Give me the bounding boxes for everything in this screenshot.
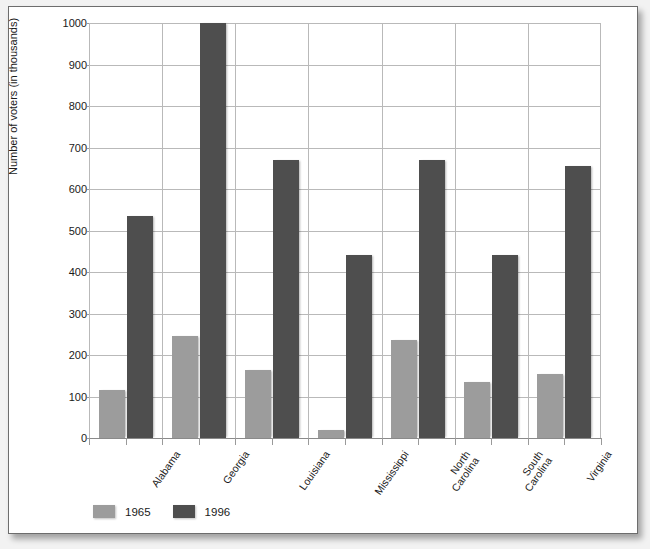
gridline-horizontal [89,397,601,398]
y-tick-label: 300 [13,308,87,320]
y-tick-label: 700 [13,142,87,154]
bar [172,336,198,438]
x-tick-label: SouthCarolina [514,449,554,494]
bar [200,23,226,438]
bar-chart: Number of voters (in thousands) 01002003… [9,7,639,535]
gridline-horizontal [89,65,601,66]
gridline-vertical [382,23,383,438]
legend-swatch [173,505,195,518]
x-tick-mark-edge [162,438,163,445]
legend-label: 1965 [125,506,151,518]
x-tick-label: Alabama [149,449,182,489]
chart-legend: 19651996 [93,505,230,518]
gridline-horizontal [89,272,601,273]
x-tick-label: Mississippi [373,449,411,497]
x-tick-mark [126,438,127,445]
x-tick-label: Louisiana [297,449,332,492]
x-tick-mark-edge [601,438,602,445]
bar [127,216,153,438]
gridline-vertical [528,23,529,438]
gridline-horizontal [89,355,601,356]
bar [537,374,563,438]
x-tick-mark-edge [455,438,456,445]
y-tick-label: 400 [13,266,87,278]
scanned-page: Number of voters (in thousands) 01002003… [0,0,650,549]
gridline-horizontal [89,106,601,107]
bar [565,166,591,438]
x-tick-mark [564,438,565,445]
y-tick-label: 600 [13,183,87,195]
x-tick-label: Georgia [221,449,251,486]
gridline-vertical [600,23,601,438]
plot-area [89,23,601,438]
y-tick-label: 100 [13,391,87,403]
y-tick-label: 900 [13,59,87,71]
gridline-horizontal [89,314,601,315]
gridline-vertical [455,23,456,438]
y-tick-label: 1000 [13,17,87,29]
y-tick-label: 800 [13,100,87,112]
bar [346,255,372,438]
x-tick-label: NorthCarolina [441,449,481,494]
y-tick-label: 0 [13,432,87,444]
x-tick-mark-edge [528,438,529,445]
bar [273,160,299,438]
x-tick-mark [199,438,200,445]
x-tick-mark-edge [89,438,90,445]
legend-item: 1996 [173,505,231,518]
x-tick-mark [272,438,273,445]
y-tick-label: 200 [13,349,87,361]
x-tick-mark [345,438,346,445]
bar [318,430,344,438]
gridline-horizontal [89,148,601,149]
gridline-horizontal [89,189,601,190]
gridline-vertical [162,23,163,438]
bar [419,160,445,438]
legend-swatch [93,505,115,518]
x-tick-mark-edge [235,438,236,445]
bar [99,390,125,438]
gridline-vertical [308,23,309,438]
x-tick-mark [491,438,492,445]
x-tick-mark-edge [382,438,383,445]
gridline-horizontal [89,231,601,232]
y-tick-label: 500 [13,225,87,237]
bar [391,340,417,438]
gridline-vertical [89,23,90,438]
bar [492,255,518,438]
legend-item: 1965 [93,505,151,518]
x-tick-label: Virginia [585,449,614,484]
chart-sheet: Number of voters (in thousands) 01002003… [8,6,638,534]
y-axis-tick-labels: 01002003004005006007008009001000 [9,23,87,438]
gridline-horizontal [89,23,601,24]
gridline-vertical [235,23,236,438]
bar [245,370,271,438]
legend-label: 1996 [205,506,231,518]
x-tick-mark-edge [308,438,309,445]
x-tick-mark [418,438,419,445]
bar [464,382,490,438]
